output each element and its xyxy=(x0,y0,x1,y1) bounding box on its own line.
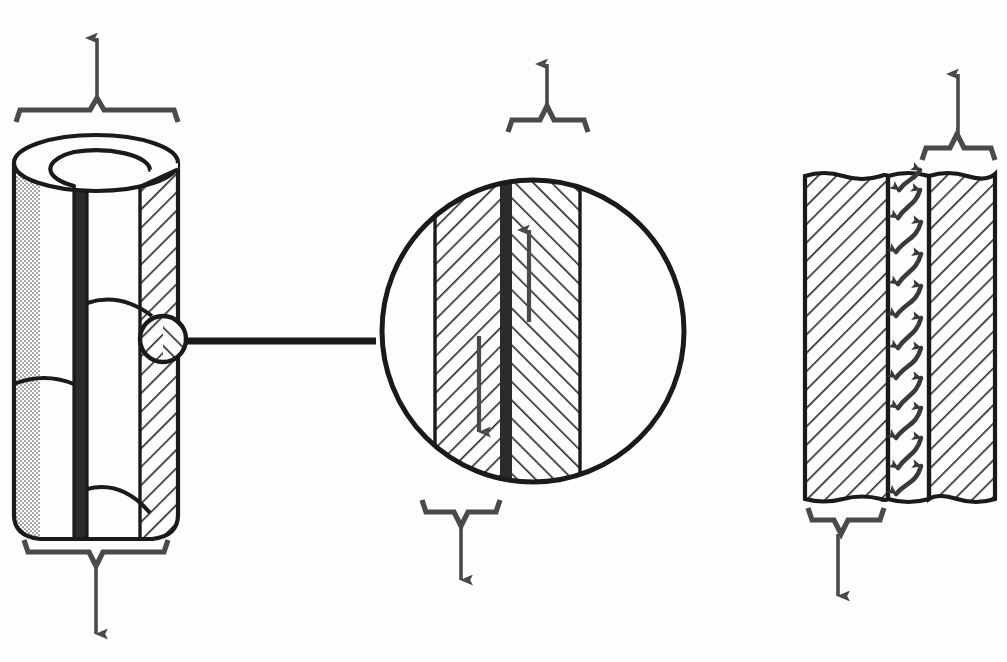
bulk-material-left xyxy=(800,165,895,510)
outer-wall-stipple xyxy=(16,150,40,550)
material-a-region xyxy=(435,170,501,500)
diagram-canvas xyxy=(0,0,1007,662)
technical-diagram-svg xyxy=(0,0,1007,662)
interface-band xyxy=(500,170,512,500)
material-b-region xyxy=(511,170,580,500)
bulk-material-right xyxy=(924,165,1004,510)
cut-edge-dark-band xyxy=(74,186,87,550)
